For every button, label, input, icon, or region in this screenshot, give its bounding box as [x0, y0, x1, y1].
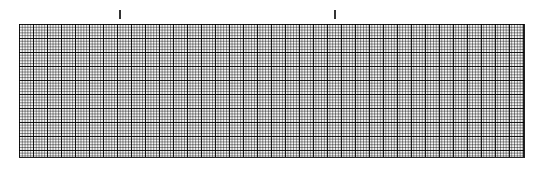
marker-tick-1: [119, 10, 121, 19]
ecg-grid-paper: [19, 24, 525, 158]
marker-tick-2: [334, 10, 336, 19]
